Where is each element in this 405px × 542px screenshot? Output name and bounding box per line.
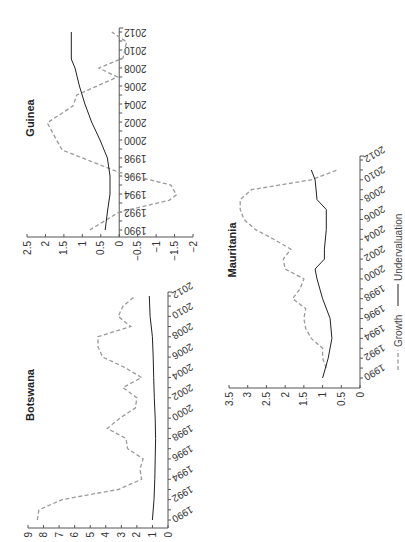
year-tick-label: 2010 — [170, 300, 195, 321]
figure: 2.521.510.50−0.5−1−1.5−21990199219941996… — [0, 0, 405, 542]
year-tick-label: 1996 — [170, 443, 195, 464]
value-tick-label: 1 — [317, 392, 328, 398]
year-tick-label: 2004 — [124, 99, 147, 110]
value-tick-label: 4 — [100, 532, 111, 538]
panel-title: Botswana — [24, 368, 36, 421]
panel-botswana: 9876543210199019921994199619982000200220… — [23, 280, 196, 537]
year-tick-label: 1990 — [362, 362, 387, 383]
year-tick-label: 1994 — [170, 463, 195, 484]
year-tick-label: 2002 — [124, 117, 147, 128]
value-tick-label: 5 — [85, 532, 96, 538]
value-tick-label: 0.5 — [95, 241, 106, 255]
value-tick-label: 0 — [163, 532, 174, 538]
value-tick-label: 1 — [77, 241, 88, 247]
year-tick-label: 2004 — [170, 362, 195, 383]
value-tick-label: 2.5 — [261, 392, 272, 406]
year-tick-label: 2008 — [170, 321, 195, 342]
year-tick-label: 2012 — [362, 144, 387, 165]
undervaluation-line — [149, 296, 155, 520]
panel-mauritania: 3.532.521.510.50199019921994199619982000… — [224, 144, 388, 406]
value-tick-label: 2 — [131, 532, 142, 538]
year-tick-label: 1998 — [362, 283, 387, 304]
value-tick-label: 2.5 — [22, 241, 33, 255]
value-tick-label: 0 — [114, 241, 125, 247]
value-tick-label: 9 — [23, 532, 34, 538]
year-tick-label: 1992 — [170, 484, 195, 505]
value-tick-label: 1.5 — [298, 392, 309, 406]
value-tick-label: −1 — [151, 241, 162, 253]
year-tick-label: 1996 — [362, 303, 387, 324]
year-tick-label: 2002 — [362, 243, 387, 264]
year-tick-label: 1994 — [124, 189, 147, 200]
value-tick-label: 0.5 — [336, 392, 347, 406]
year-tick-label: 2000 — [124, 135, 147, 146]
value-tick-label: 3 — [116, 532, 127, 538]
value-tick-label: −1.5 — [169, 241, 180, 261]
year-tick-label: 1998 — [170, 423, 195, 444]
year-tick-label: 2010 — [124, 45, 147, 56]
year-tick-label: 2012 — [170, 280, 195, 301]
year-tick-label: 2000 — [362, 263, 387, 284]
year-tick-label: 2000 — [170, 402, 195, 423]
panel-title: Guinea — [24, 98, 36, 136]
legend: GrowthUndervaluation — [393, 214, 404, 370]
growth-line — [47, 32, 176, 230]
value-tick-label: 3 — [242, 392, 253, 398]
year-tick-label: 2008 — [362, 184, 387, 205]
value-tick-label: 2 — [40, 241, 51, 247]
year-tick-label: 2002 — [170, 382, 195, 403]
growth-line — [240, 170, 337, 368]
value-tick-label: 8 — [38, 532, 49, 538]
value-tick-label: 0 — [355, 392, 366, 398]
year-tick-label: 1994 — [362, 322, 387, 343]
growth-line — [37, 296, 143, 520]
year-tick-label: 2006 — [362, 204, 387, 225]
legend-growth-label: Growth — [393, 315, 404, 347]
year-tick-label: 2006 — [170, 341, 195, 362]
value-tick-label: 1 — [147, 532, 158, 538]
undervaluation-line — [71, 32, 110, 230]
year-tick-label: 2008 — [124, 63, 147, 74]
panel-title: Mauritania — [226, 222, 238, 278]
year-tick-label: 2004 — [362, 223, 387, 244]
value-tick-label: 7 — [54, 532, 65, 538]
year-tick-label: 1990 — [124, 225, 147, 236]
panel-guinea: 2.521.510.50−0.5−1−1.5−21990199219941996… — [22, 27, 199, 261]
value-tick-label: 3.5 — [224, 392, 235, 406]
value-tick-label: 2 — [280, 392, 291, 398]
value-tick-label: −0.5 — [132, 241, 143, 261]
value-tick-label: 1.5 — [58, 241, 69, 255]
year-tick-label: 2006 — [124, 81, 147, 92]
year-tick-label: 1990 — [170, 504, 195, 525]
value-tick-label: 6 — [69, 532, 80, 538]
value-tick-label: −2 — [188, 241, 199, 253]
year-tick-label: 2012 — [124, 27, 147, 38]
legend-undervaluation-label: Undervaluation — [393, 214, 404, 281]
year-tick-label: 1992 — [124, 207, 147, 218]
year-tick-label: 2010 — [362, 164, 387, 185]
year-tick-label: 1998 — [124, 153, 147, 164]
year-tick-label: 1992 — [362, 342, 387, 363]
